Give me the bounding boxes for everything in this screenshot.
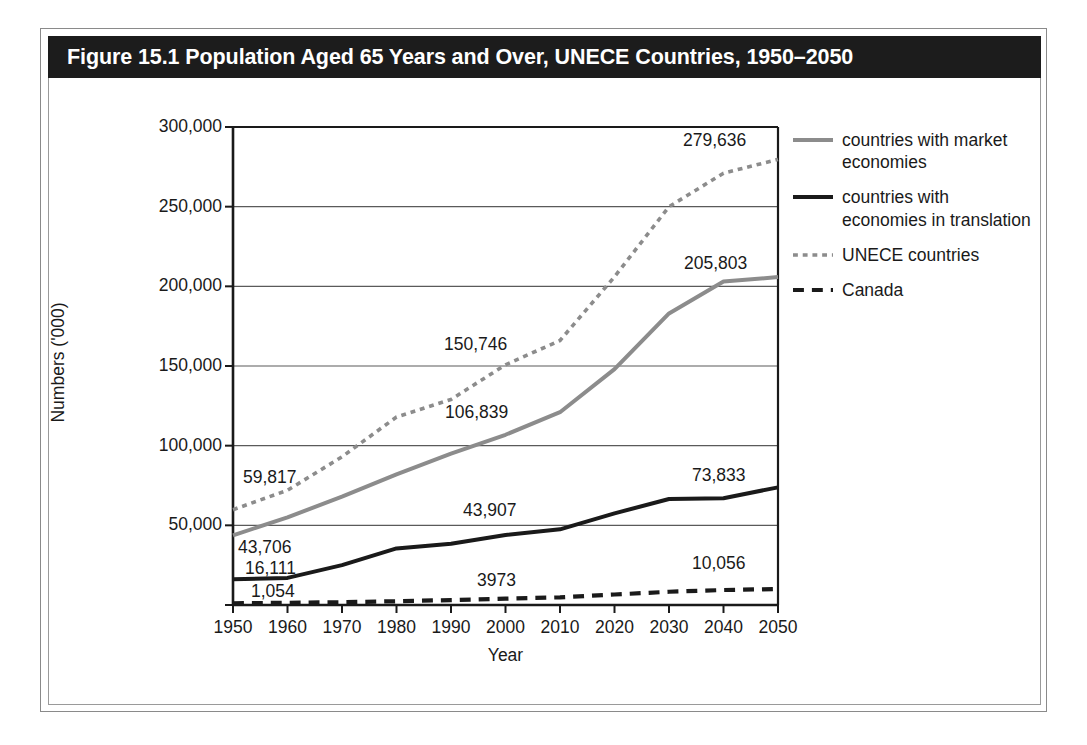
legend-item[interactable]: countries with market economies [793, 129, 1033, 173]
legend-item-label: UNECE countries [842, 244, 979, 266]
x-tick-label: 2050 [750, 617, 806, 638]
x-tick-label: 1990 [423, 617, 479, 638]
y-tick-label: 50,000 [102, 514, 222, 535]
data-point-label: 205,803 [684, 253, 747, 274]
line-dotted-gray-icon [793, 246, 833, 264]
data-point-label: 1,054 [251, 581, 295, 602]
y-tick-label: 250,000 [102, 196, 222, 217]
x-tick-label: 1970 [314, 617, 370, 638]
y-tick-label: 150,000 [102, 355, 222, 376]
y-tick-label: 300,000 [102, 116, 222, 137]
legend-item-label: Canada [842, 279, 903, 301]
x-tick-label: 1960 [260, 617, 316, 638]
data-point-label: 43,706 [238, 537, 292, 558]
legend-item[interactable]: Canada [793, 279, 1033, 301]
data-point-label: 3973 [477, 570, 516, 591]
data-point-label: 73,833 [692, 465, 746, 486]
legend-item[interactable]: countries with economies in translation [793, 186, 1033, 230]
line-dashed-black-icon [793, 281, 833, 299]
x-tick-label: 2000 [478, 617, 534, 638]
data-point-label: 150,746 [444, 334, 507, 355]
x-tick-label: 2020 [587, 617, 643, 638]
x-axis-title: Year [233, 645, 778, 666]
data-point-label: 10,056 [692, 553, 746, 574]
y-tick-label: 200,000 [102, 275, 222, 296]
figure-title-bar: Figure 15.1 Population Aged 65 Years and… [48, 36, 1041, 78]
legend-item-label: countries with market economies [842, 129, 1032, 173]
data-point-label: 16,111 [245, 558, 296, 579]
y-tick-label: 100,000 [102, 435, 222, 456]
data-point-label: 279,636 [683, 130, 746, 151]
x-tick-label: 2040 [696, 617, 752, 638]
chart-legend: countries with market economiescountries… [793, 129, 1033, 314]
figure-title: Figure 15.1 Population Aged 65 Years and… [48, 45, 853, 70]
x-tick-label: 2010 [532, 617, 588, 638]
data-point-label: 59,817 [243, 467, 297, 488]
legend-item-label: countries with economies in translation [842, 186, 1032, 230]
x-tick-label: 1980 [369, 617, 425, 638]
x-tick-label: 1950 [205, 617, 261, 638]
data-point-label: 106,839 [445, 402, 508, 423]
y-axis-title: Numbers ('000) [48, 283, 69, 443]
data-point-label: 43,907 [463, 500, 517, 521]
legend-item[interactable]: UNECE countries [793, 244, 1033, 266]
line-solid-black-icon [793, 188, 833, 206]
x-tick-label: 2030 [641, 617, 697, 638]
line-solid-gray-icon [793, 131, 833, 149]
